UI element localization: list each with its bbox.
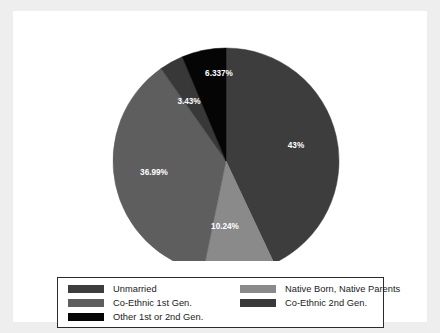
- legend-label-native-born-native-parents: Native Born, Native Parents: [285, 284, 400, 294]
- pie-slice-data-label: 10.24%: [211, 222, 239, 231]
- legend-item-co-ethnic-1st-gen[interactable]: Co-Ethnic 1st Gen.: [68, 296, 240, 310]
- pie-slice-data-label: 6.337%: [205, 69, 233, 78]
- legend-swatch-co-ethnic-1st-gen: [68, 299, 104, 307]
- chart-legend: Unmarried Native Born, Native Parents Co…: [57, 277, 384, 328]
- legend-swatch-native-born-native-parents: [240, 285, 276, 293]
- legend-swatch-unmarried: [68, 285, 104, 293]
- legend-label-unmarried: Unmarried: [113, 284, 157, 294]
- legend-item-unmarried[interactable]: Unmarried: [68, 282, 240, 296]
- legend-item-other-1st-or-2nd-gen[interactable]: Other 1st or 2nd Gen.: [68, 310, 240, 324]
- legend-swatch-other-1st-or-2nd-gen: [68, 313, 104, 321]
- figure-container: 43%10.24%36.99%3.43%6.337% Unmarried Nat…: [0, 0, 440, 333]
- legend-label-co-ethnic-2nd-gen: Co-Ethnic 2nd Gen.: [285, 298, 367, 308]
- legend-item-native-born-native-parents[interactable]: Native Born, Native Parents: [240, 282, 395, 296]
- pie-plot-area: 43%10.24%36.99%3.43%6.337%: [13, 11, 427, 261]
- legend-item-co-ethnic-2nd-gen[interactable]: Co-Ethnic 2nd Gen.: [240, 296, 395, 310]
- legend-swatch-co-ethnic-2nd-gen: [240, 299, 276, 307]
- pie-slice-data-label: 43%: [288, 141, 305, 150]
- legend-label-co-ethnic-1st-gen: Co-Ethnic 1st Gen.: [113, 298, 192, 308]
- pie-slice-data-label: 36.99%: [140, 168, 168, 177]
- pie-slice-data-label: 3.43%: [177, 97, 201, 106]
- legend-label-other-1st-or-2nd-gen: Other 1st or 2nd Gen.: [113, 312, 203, 322]
- chart-panel: 43%10.24%36.99%3.43%6.337% Unmarried Nat…: [13, 11, 427, 322]
- legend-grid: Unmarried Native Born, Native Parents Co…: [58, 282, 383, 324]
- pie-chart-svg: 43%10.24%36.99%3.43%6.337%: [13, 11, 427, 261]
